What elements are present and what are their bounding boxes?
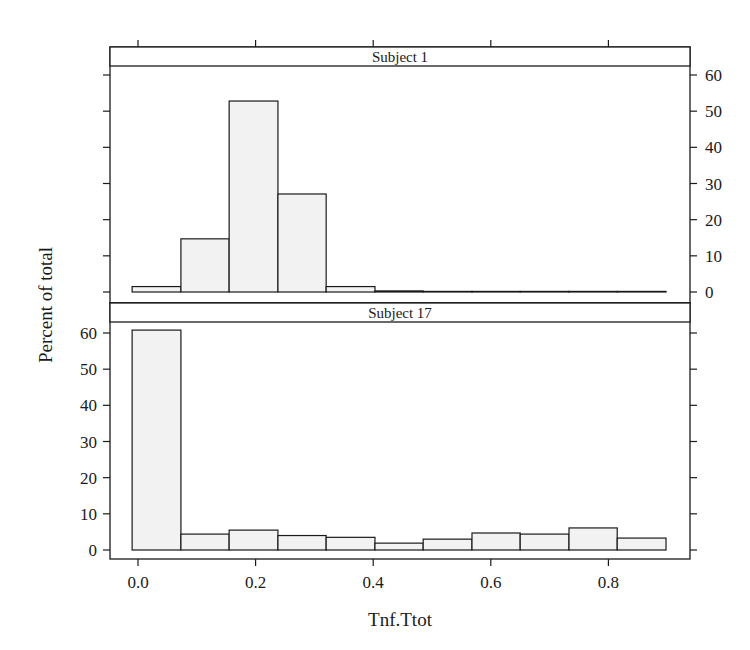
- histogram-bar: [617, 538, 666, 550]
- x-ticks-top: [138, 40, 608, 47]
- y-axis-left: 0102030405060: [80, 324, 110, 560]
- histogram-bar: [617, 291, 666, 292]
- histogram-bar: [229, 530, 278, 550]
- histogram-bar: [132, 330, 181, 550]
- histogram-bar: [278, 194, 326, 292]
- panel-subject-1: Subject 1 0102030405060: [103, 40, 722, 303]
- histogram-bar: [472, 533, 520, 550]
- histogram-bar: [132, 287, 181, 292]
- histogram-bar: [278, 536, 326, 550]
- histogram-bar: [520, 534, 569, 550]
- y-tick-label: 0: [89, 541, 98, 560]
- x-tick-label: 0.6: [480, 573, 501, 592]
- y-ticks-right: [690, 333, 697, 550]
- histogram-bar: [229, 101, 278, 292]
- x-tick-label: 0.8: [598, 573, 619, 592]
- bars: [132, 330, 666, 550]
- y-tick-label: 10: [80, 505, 97, 524]
- x-tick-label: 0.4: [363, 573, 385, 592]
- histogram-bar: [423, 539, 472, 550]
- panel-subject-17: Subject 17 0102030405060 0.00.20.40.60.8: [80, 303, 697, 592]
- x-axis-bottom: 0.00.20.40.60.8: [127, 559, 619, 592]
- y-axis-right: 0102030405060: [690, 66, 722, 302]
- x-axis-label: Tnf.Ttot: [368, 609, 433, 630]
- y-tick-label: 20: [80, 469, 97, 488]
- y-tick-label: 20: [705, 211, 722, 230]
- y-ticks-left: [103, 75, 110, 292]
- y-tick-label: 10: [705, 247, 722, 266]
- y-tick-label: 40: [80, 396, 97, 415]
- bars: [132, 101, 666, 292]
- y-tick-label: 30: [80, 433, 97, 452]
- histogram-bar: [375, 291, 423, 292]
- x-tick-label: 0.2: [245, 573, 266, 592]
- histogram-chart: Subject 1 0102030405060 Subject 17 01020…: [0, 0, 750, 650]
- y-axis-label: Percent of total: [35, 247, 56, 363]
- y-tick-label: 60: [80, 324, 97, 343]
- y-tick-label: 40: [705, 138, 722, 157]
- panel-frame: [110, 303, 690, 559]
- y-tick-label: 50: [705, 102, 722, 121]
- histogram-bar: [520, 291, 569, 292]
- histogram-bar: [569, 291, 617, 292]
- y-tick-label: 0: [705, 283, 714, 302]
- x-tick-label: 0.0: [127, 573, 148, 592]
- histogram-bar: [569, 528, 617, 550]
- strip-label: Subject 1: [372, 49, 428, 65]
- histogram-bar: [423, 291, 472, 292]
- histogram-bar: [326, 537, 375, 550]
- strip-label: Subject 17: [368, 305, 432, 321]
- y-tick-label: 60: [705, 66, 722, 85]
- y-tick-label: 30: [705, 175, 722, 194]
- histogram-bar: [326, 287, 375, 292]
- histogram-bar: [181, 534, 229, 550]
- histogram-bar: [472, 291, 520, 292]
- histogram-bar: [375, 543, 423, 550]
- y-tick-label: 50: [80, 360, 97, 379]
- histogram-bar: [181, 239, 229, 292]
